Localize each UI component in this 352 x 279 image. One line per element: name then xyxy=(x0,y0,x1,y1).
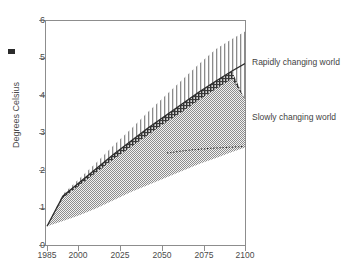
y-tick-label-1: 1 xyxy=(23,203,45,212)
annotation-rapidly-changing-world: Rapidly changing world xyxy=(252,57,340,67)
y-tick-label-0-wrap: 0 xyxy=(0,241,45,250)
band-slowly-changing-world xyxy=(47,72,245,226)
y-tick-label-5-wrap: 5 xyxy=(0,53,45,62)
annotation-slowly-changing-world: Slowly changing world xyxy=(252,112,336,122)
y-tick-label-6-wrap: 6 xyxy=(0,16,45,25)
y-tick-label-6: 6 xyxy=(23,16,45,25)
chart-plot-bands xyxy=(0,0,352,279)
y-tick-label-4-wrap: 4 xyxy=(0,91,45,100)
y-tick-label-3-wrap: 3 xyxy=(0,128,45,137)
x-tick-label-2075: 2075 xyxy=(184,250,224,260)
x-tick-label-2050: 2050 xyxy=(142,250,182,260)
x-tick-label-2100: 2100 xyxy=(225,250,265,260)
plot-right-border xyxy=(245,20,246,246)
y-tick-label-2: 2 xyxy=(23,166,45,175)
x-tick-label-2025: 2025 xyxy=(100,250,140,260)
y-tick-label-0: 0 xyxy=(23,241,45,250)
y-axis-line xyxy=(45,20,46,246)
y-tick-label-3: 3 xyxy=(23,128,45,137)
y-tick-label-1-wrap: 1 xyxy=(0,203,45,212)
y-tick-label-5: 5 xyxy=(23,53,45,62)
plot-top-border xyxy=(45,20,246,21)
y-tick-label-4: 4 xyxy=(23,91,45,100)
x-axis-line xyxy=(45,245,246,246)
chart-figure: 6 5 4 3 2 1 0 1985 2000 2025 2050 2075 2… xyxy=(0,0,352,279)
y-tick-label-2-wrap: 2 xyxy=(0,166,45,175)
x-tick-label-2000: 2000 xyxy=(58,250,98,260)
y-axis-title: Degrees Celsius xyxy=(11,55,21,175)
